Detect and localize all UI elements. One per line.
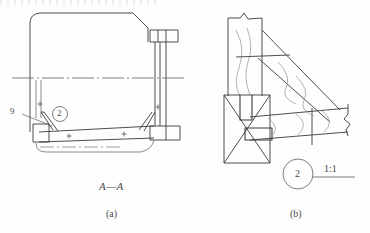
detail-callout-label-b: 2 — [295, 168, 300, 179]
horizontal-chord-bottom — [250, 132, 348, 140]
break-wave-line — [322, 111, 330, 132]
horizontal-chord-top — [250, 108, 348, 117]
engineering-drawing-canvas — [0, 0, 370, 233]
right-base-plate — [150, 126, 180, 140]
left-base-plate — [33, 124, 49, 142]
weld-mark — [66, 133, 71, 138]
break-wave-line — [296, 76, 314, 116]
reference-line-horizontal — [236, 55, 290, 57]
block-notch-upper — [240, 95, 252, 120]
section-title: A—A — [99, 180, 124, 192]
diagonal-member-lower-edge — [258, 58, 330, 122]
top-right-cap-plate — [150, 30, 178, 42]
detail-callout-label-a: 2 — [57, 108, 62, 118]
break-wave-line — [296, 114, 304, 135]
break-wave-line — [278, 62, 296, 104]
detail-scale-label: 1:1 — [324, 163, 337, 174]
scan-artifact — [0, 0, 160, 5]
weld-mark — [37, 101, 42, 106]
drawing-sheet: 9 2 A—A (a) 2 1:1 (b) — [0, 0, 370, 233]
left-gusset-diag-1 — [41, 112, 53, 130]
break-wave-line — [236, 30, 242, 96]
break-wave-line — [246, 28, 251, 95]
caption-a: (a) — [106, 208, 117, 219]
vertical-break-symbol — [228, 13, 262, 19]
weld-mark — [121, 131, 126, 136]
caption-b: (b) — [290, 208, 302, 219]
chord-break-symbol — [344, 104, 350, 136]
frame-outer-profile — [30, 13, 148, 84]
diagonal-member-upper-edge — [262, 30, 340, 110]
figure-a-section-view — [12, 13, 186, 152]
label-part-9: 9 — [10, 106, 15, 116]
left-gusset-diag-2 — [44, 112, 58, 131]
bottom-chord-bottom-edge — [39, 138, 154, 142]
